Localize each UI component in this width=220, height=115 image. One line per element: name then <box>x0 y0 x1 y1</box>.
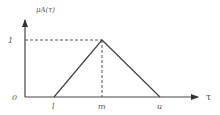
diagram-canvas: μA(τ) 1 0 l m u τ <box>0 0 220 115</box>
x-axis-label: τ <box>206 92 211 102</box>
peak-value-label: 1 <box>8 36 13 45</box>
triangle-membership-curve <box>54 40 160 97</box>
point-m-label: m <box>98 102 106 111</box>
origin-label: 0 <box>12 93 17 102</box>
y-axis-label: μA(τ) <box>36 6 55 14</box>
point-l-label: l <box>52 102 55 111</box>
point-u-label: u <box>157 102 162 111</box>
membership-function-diagram: μA(τ) 1 0 l m u τ <box>0 0 220 115</box>
